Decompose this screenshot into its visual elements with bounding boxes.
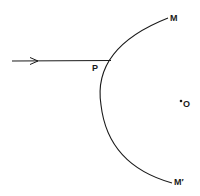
center-point bbox=[180, 100, 183, 103]
label-m: M bbox=[170, 14, 178, 23]
mirror-arc bbox=[100, 18, 172, 183]
mirror-diagram bbox=[0, 0, 200, 196]
label-o: O bbox=[183, 100, 190, 109]
label-m-prime: M′ bbox=[174, 178, 184, 187]
incident-ray bbox=[12, 61, 111, 62]
label-p: P bbox=[92, 64, 98, 73]
